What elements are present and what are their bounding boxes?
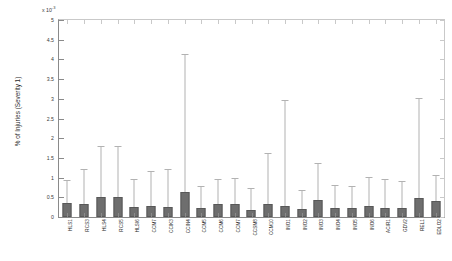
- x-axis-tick-label: INO3: [319, 219, 324, 230]
- x-axis-tick-label: CCIK3: [169, 219, 174, 233]
- x-axis-tick-label: INO1: [286, 219, 291, 230]
- y-axis-tick-label: 4: [51, 56, 54, 62]
- x-axis-tick-label: EDLO2: [437, 219, 442, 235]
- chart-figure: x 10-3 % of Injuries (Severity 1) 00.511…: [0, 0, 452, 261]
- x-axis-tick-label: ACIR1: [386, 219, 391, 233]
- y-axis-exponent-base: x 10: [42, 7, 52, 13]
- x-axis-tick-label: RCS3: [85, 219, 90, 232]
- x-axis-tick-label: GDV2: [403, 219, 408, 232]
- x-axis-tick-label: INO5: [353, 219, 358, 230]
- y-axis-tick-label: 0.5: [47, 194, 54, 200]
- x-axis-tick-label: RCS5: [119, 219, 124, 232]
- x-axis-tick-label: CCIN4: [186, 219, 191, 233]
- y-axis-tick-labels: 00.511.522.533.544.55: [0, 19, 452, 218]
- x-axis-tick-label: CCM5: [202, 219, 207, 232]
- x-axis-tick-label: INO4: [336, 219, 341, 230]
- y-axis-tick-label: 3: [51, 96, 54, 102]
- y-axis-tick-label: 1.5: [47, 155, 54, 161]
- x-axis-tick-label: HLS4: [102, 219, 107, 231]
- x-axis-tick-label: CCM7: [152, 219, 157, 232]
- y-axis-exponent: x 10-3: [42, 5, 55, 13]
- x-axis-tick-label: CCM7: [236, 219, 241, 232]
- x-axis-tick-label: CCM6: [219, 219, 224, 232]
- x-axis-tick-label: CCSM8: [253, 219, 258, 236]
- y-axis-tick-label: 0: [51, 214, 54, 220]
- y-axis-exponent-power: -3: [52, 5, 56, 10]
- x-axis-tick-labels: HLS1RCS3HLS4RCS5HLSI6CCM7CCIK3CCIN4CCM5C…: [58, 219, 445, 261]
- x-axis-tick-label: HLS1: [68, 219, 73, 231]
- y-axis-tick-label: 2.5: [47, 116, 54, 122]
- y-axis-tick-label: 3.5: [47, 76, 54, 82]
- x-axis-tick-label: INO6: [370, 219, 375, 230]
- y-axis-tick-label: 4.5: [47, 37, 54, 43]
- x-axis-tick-label: REL1: [420, 219, 425, 231]
- y-axis-tick-label: 5: [51, 17, 54, 23]
- x-axis-tick-label: CCM10: [269, 219, 274, 235]
- y-axis-tick-label: 1: [51, 175, 54, 181]
- x-axis-tick-label: INO2: [303, 219, 308, 230]
- x-axis-tick-label: HLSI6: [135, 219, 140, 232]
- y-axis-tick-label: 2: [51, 135, 54, 141]
